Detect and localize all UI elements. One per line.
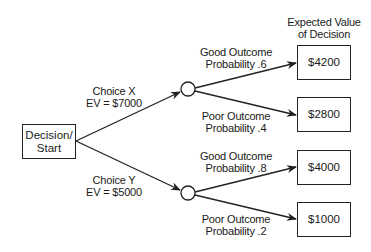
root-line1: Decision/ <box>25 129 72 142</box>
value-text: $2800 <box>308 108 340 121</box>
chance-node-y <box>181 186 195 200</box>
outcome-probability: Probability .2 <box>202 225 271 237</box>
outcome-probability: Probability .8 <box>200 162 272 174</box>
header-label: Expected Value of Decision <box>287 16 360 40</box>
choice-y-name: Choice Y <box>86 174 142 186</box>
outcome-label: Good Outcome <box>200 150 272 162</box>
choice-x-ev: EV = $7000 <box>86 97 142 109</box>
value-box-x-good: $4200 <box>297 45 351 80</box>
outcome-label: Poor Outcome <box>202 110 271 122</box>
choice-x-name: Choice X <box>86 85 142 97</box>
header-line1: Expected Value <box>287 16 360 28</box>
value-box-y-good: $4000 <box>297 150 351 185</box>
outcome-y-poor-label: Poor Outcome Probability .2 <box>202 213 271 237</box>
header-line2: of Decision <box>287 28 360 40</box>
choice-y-ev: EV = $5000 <box>86 186 142 198</box>
value-text: $4200 <box>308 56 340 69</box>
outcome-y-good-label: Good Outcome Probability .8 <box>200 150 272 174</box>
value-box-x-poor: $2800 <box>297 97 351 132</box>
choice-x-label: Choice X EV = $7000 <box>86 85 142 109</box>
root-line2: Start <box>25 142 72 155</box>
outcome-x-poor-label: Poor Outcome Probability .4 <box>202 110 271 134</box>
value-text: $1000 <box>308 213 340 226</box>
decision-tree-diagram: Expected Value of Decision Decision/ Sta… <box>0 0 371 252</box>
outcome-probability: Probability .6 <box>200 58 272 70</box>
choice-y-label: Choice Y EV = $5000 <box>86 174 142 198</box>
outcome-x-good-label: Good Outcome Probability .6 <box>200 46 272 70</box>
value-box-y-poor: $1000 <box>297 202 351 237</box>
decision-start-node: Decision/ Start <box>22 124 76 159</box>
outcome-label: Good Outcome <box>200 46 272 58</box>
chance-node-x <box>181 82 195 96</box>
value-text: $4000 <box>308 161 340 174</box>
outcome-label: Poor Outcome <box>202 213 271 225</box>
outcome-probability: Probability .4 <box>202 122 271 134</box>
